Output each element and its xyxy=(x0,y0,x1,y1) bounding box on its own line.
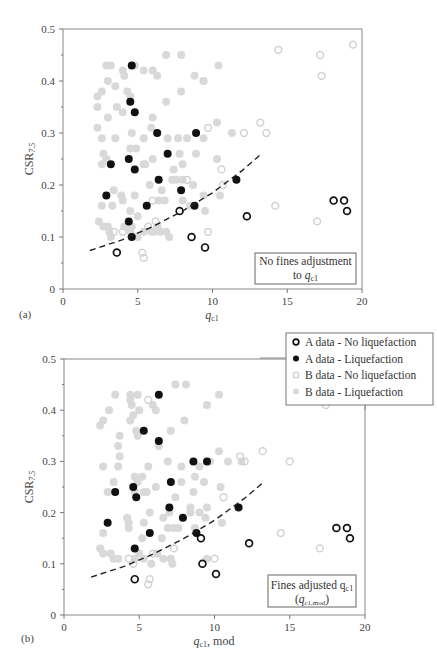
data-point xyxy=(99,550,107,558)
x-tick-label: 10 xyxy=(209,621,221,633)
data-point xyxy=(167,427,175,435)
data-point xyxy=(125,155,133,163)
chart-panel-b: 00.10.20.30.40.5 05101520 Fines adjusted… xyxy=(21,333,433,649)
data-point xyxy=(162,51,170,59)
data-point xyxy=(104,113,112,121)
data-point xyxy=(341,197,348,204)
data-point xyxy=(110,186,118,194)
legend: A data - No liquefactionA data - Liquefa… xyxy=(260,333,433,410)
data-point xyxy=(114,463,122,471)
data-points-b xyxy=(96,381,353,588)
data-point xyxy=(350,41,357,48)
data-point xyxy=(333,525,340,532)
data-point xyxy=(105,406,113,414)
y-tick-label: 0 xyxy=(50,283,56,295)
data-point xyxy=(125,217,133,225)
data-point xyxy=(147,560,155,568)
data-points-a xyxy=(93,41,356,261)
data-point xyxy=(203,503,211,511)
data-point xyxy=(155,176,163,184)
data-point xyxy=(104,77,112,85)
data-point xyxy=(275,46,282,53)
data-point xyxy=(186,509,194,517)
y-tick-label: 0 xyxy=(51,609,57,621)
y-tick-label: 0.2 xyxy=(42,507,56,519)
y-tick-label: 0.2 xyxy=(41,179,55,191)
data-point xyxy=(145,397,152,404)
data-point xyxy=(162,98,170,106)
data-point xyxy=(111,391,119,399)
data-point xyxy=(167,478,175,486)
annotation-box-b: Fines adjusted qc1 (qc1,mod) xyxy=(268,575,356,607)
data-point xyxy=(218,166,225,173)
x-tick-label: 15 xyxy=(282,295,294,307)
data-point xyxy=(140,519,148,527)
figure: 00.10.20.30.40.5 05101520 No fines adjus… xyxy=(0,0,437,670)
x-axis-label-b: qc1, mod xyxy=(194,634,235,649)
data-point xyxy=(149,155,157,163)
data-point xyxy=(120,72,128,80)
data-point xyxy=(161,197,169,205)
legend-entry: B data - Liquefaction xyxy=(305,386,403,399)
data-point xyxy=(192,129,200,137)
data-point xyxy=(153,129,161,137)
data-point xyxy=(191,72,199,80)
data-point xyxy=(277,530,284,537)
data-point xyxy=(116,452,124,460)
data-point xyxy=(131,108,139,116)
legend-entry: B data - No liquefaction xyxy=(305,369,416,382)
data-point xyxy=(199,560,206,567)
x-tick-label: 20 xyxy=(357,295,369,307)
data-point xyxy=(158,186,166,194)
data-point xyxy=(159,514,167,522)
data-point xyxy=(174,134,182,142)
y-tick-label: 0.5 xyxy=(41,23,55,35)
data-point xyxy=(170,165,178,173)
data-point xyxy=(134,391,142,399)
data-point xyxy=(189,457,197,465)
data-point xyxy=(213,155,221,163)
data-point xyxy=(217,483,225,491)
data-point xyxy=(180,416,188,424)
x-tick-label: 0 xyxy=(61,621,67,633)
data-point xyxy=(240,130,247,137)
data-point xyxy=(126,416,134,424)
data-point xyxy=(116,432,124,440)
data-point xyxy=(243,213,250,220)
data-point xyxy=(110,478,118,486)
legend-entry: A data - No liquefaction xyxy=(305,336,416,349)
y-tick-label: 0.4 xyxy=(41,75,55,87)
data-point xyxy=(114,555,122,563)
x-axis-ticks-b: 05101520 xyxy=(61,615,371,633)
data-point xyxy=(177,478,185,486)
data-point xyxy=(132,493,140,501)
data-point xyxy=(152,483,160,491)
annotation-box-a: No fines adjustment to qc1 xyxy=(255,253,356,284)
data-point xyxy=(286,458,293,465)
data-point xyxy=(126,98,134,106)
data-point xyxy=(189,488,197,496)
data-point xyxy=(344,208,351,215)
data-point xyxy=(143,488,151,496)
data-point xyxy=(125,524,133,532)
data-point xyxy=(128,61,136,69)
data-point xyxy=(216,191,224,199)
data-point xyxy=(205,124,212,131)
data-point xyxy=(96,422,104,430)
data-point xyxy=(93,103,101,111)
data-point xyxy=(164,150,172,158)
data-point xyxy=(153,72,161,80)
panel-label-b: (b) xyxy=(21,632,34,645)
data-point xyxy=(213,571,220,578)
data-point xyxy=(134,212,142,220)
data-point xyxy=(211,555,218,562)
data-point xyxy=(149,113,157,121)
y-tick-label: 0.4 xyxy=(42,404,56,416)
data-point xyxy=(191,473,199,481)
data-point xyxy=(111,488,119,496)
data-point xyxy=(143,202,151,210)
data-point xyxy=(111,82,119,90)
data-point xyxy=(202,244,209,251)
data-point xyxy=(164,134,172,142)
data-point xyxy=(155,391,163,399)
